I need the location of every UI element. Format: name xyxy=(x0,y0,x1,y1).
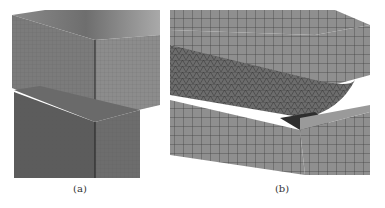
caption-b: (b) xyxy=(262,183,302,194)
grooved-block-roller-illustration xyxy=(165,0,385,180)
caption-a: (a) xyxy=(60,183,100,194)
panel-a-mesh-blocks xyxy=(0,0,165,180)
panel-b-grooved-block-roller xyxy=(165,0,385,180)
stacked-blocks-illustration xyxy=(0,0,165,180)
